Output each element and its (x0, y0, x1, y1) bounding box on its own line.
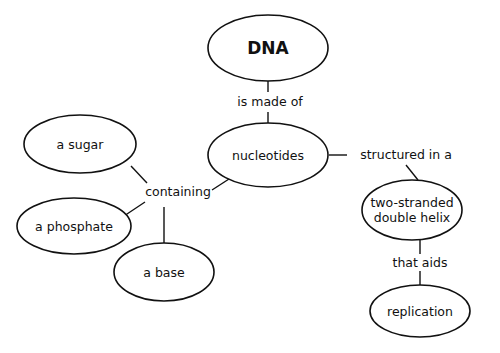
node-replication: replication (370, 285, 470, 337)
node-label: DNA (247, 38, 289, 58)
node-nucleotides: nucleotides (208, 123, 328, 187)
edge-nucleotides-to-containing (212, 179, 229, 190)
edge-sugar-to-containing (131, 166, 147, 183)
link-label-is-made-of: is made of (237, 94, 303, 109)
nodes-layer: DNAnucleotidesa sugara phosphatea basetw… (17, 15, 470, 337)
link-label-containing: containing (145, 184, 211, 199)
link-label-that-aids: that aids (393, 255, 448, 270)
node-label: a phosphate (35, 219, 113, 234)
node-helix: two-strandeddouble helix (362, 180, 462, 240)
node-label: two-stranded (370, 195, 453, 210)
node-sugar: a sugar (24, 115, 136, 173)
node-label: nucleotides (232, 148, 304, 163)
node-label: replication (387, 304, 453, 319)
node-phosphate: a phosphate (17, 198, 131, 254)
concept-map: DNAnucleotidesa sugara phosphatea basetw… (0, 0, 500, 353)
node-dna: DNA (208, 15, 328, 81)
concept-map-canvas: DNAnucleotidesa sugara phosphatea basetw… (0, 0, 500, 353)
node-base: a base (114, 243, 214, 301)
node-label: double helix (374, 210, 451, 225)
edge-structured-in-a-to-helix (406, 165, 418, 180)
node-label: a sugar (57, 137, 105, 152)
link-label-structured-in-a: structured in a (360, 147, 452, 162)
node-label: a base (143, 265, 185, 280)
